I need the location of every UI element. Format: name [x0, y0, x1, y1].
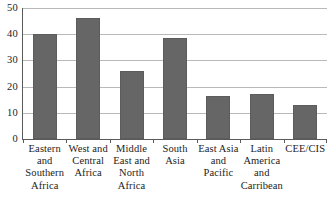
x-category-label-line: and — [23, 155, 66, 167]
y-tick-label: 30 — [7, 55, 18, 66]
bar[interactable] — [293, 105, 317, 139]
x-category-label-line: and — [197, 155, 240, 167]
x-category-label: West andCentralAfrica — [66, 143, 109, 198]
x-category-label-line: East and — [110, 155, 153, 167]
bar-slot — [197, 8, 240, 139]
x-category-label: South Asia — [153, 143, 196, 198]
bar-slot — [153, 8, 196, 139]
y-tick-label: 0 — [13, 134, 18, 145]
bar[interactable] — [120, 71, 144, 139]
x-category-label-line: Africa — [110, 180, 153, 192]
bar[interactable] — [250, 94, 274, 139]
x-category-label-line: CEE/CIS — [284, 143, 327, 155]
bar[interactable] — [76, 18, 100, 139]
y-tick-label: 10 — [7, 108, 18, 119]
x-category-label-line: Eastern — [23, 143, 66, 155]
bar-slot — [110, 8, 153, 139]
x-category-label-line: West and — [66, 143, 109, 155]
x-category-label-line: America — [240, 155, 283, 167]
bar[interactable] — [206, 96, 230, 139]
x-category-label-line: Africa — [23, 180, 66, 192]
x-category-label-line: Middle — [110, 143, 153, 155]
x-category-label-line: and — [240, 167, 283, 179]
y-tick-label: 40 — [7, 29, 18, 40]
bar[interactable] — [33, 34, 57, 139]
x-category-label-line: South Asia — [153, 143, 196, 167]
x-category-label: LatinAmericaandCarribean — [240, 143, 283, 198]
x-category-label-line: Latin — [240, 143, 283, 155]
x-category-label-line: Pacific — [197, 167, 240, 179]
x-category-label-line: Southern — [23, 167, 66, 179]
x-axis-labels: EasternandSouthernAfricaWest andCentralA… — [23, 143, 327, 198]
x-category-label-line: East Asia — [197, 143, 240, 155]
x-category-label: CEE/CIS — [284, 143, 327, 198]
x-category-label: East AsiaandPacific — [197, 143, 240, 198]
x-category-label: MiddleEast andNorthAfrica — [110, 143, 153, 198]
bar-slot — [23, 8, 66, 139]
y-tick-label: 20 — [7, 81, 18, 92]
y-tick-label: 50 — [7, 3, 18, 14]
x-category-label-line: Central — [66, 155, 109, 167]
x-category-label: EasternandSouthernAfrica — [23, 143, 66, 198]
bar-chart-figure: 01020304050 EasternandSouthernAfricaWest… — [0, 0, 327, 198]
x-category-label-line: North — [110, 167, 153, 179]
bar-series — [23, 8, 327, 139]
plot-area — [23, 8, 327, 139]
bar[interactable] — [163, 38, 187, 139]
bar-slot — [284, 8, 327, 139]
x-category-label-line: Africa — [66, 167, 109, 179]
y-axis: 01020304050 — [0, 0, 22, 145]
bar-slot — [66, 8, 109, 139]
x-category-label-line: Carribean — [240, 180, 283, 192]
bar-slot — [240, 8, 283, 139]
